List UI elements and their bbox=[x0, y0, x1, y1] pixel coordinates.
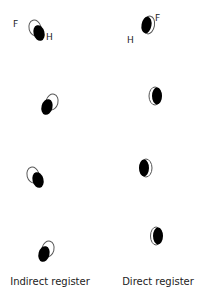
marker-f: F bbox=[155, 13, 160, 23]
marker-h: H bbox=[127, 35, 134, 45]
ellipse-pair bbox=[25, 166, 45, 189]
filled-ellipse bbox=[139, 160, 149, 177]
filled-ellipse bbox=[31, 171, 46, 189]
filled-ellipse bbox=[32, 24, 47, 42]
register-diagram: FH FH bbox=[0, 0, 207, 304]
filled-ellipse bbox=[153, 228, 163, 245]
ellipse-pair bbox=[37, 240, 56, 263]
ellipse-pair bbox=[139, 159, 152, 177]
marker-f: F bbox=[13, 19, 18, 29]
direct-register-column: FH bbox=[127, 13, 163, 245]
ellipse-pair bbox=[27, 19, 46, 42]
filled-ellipse bbox=[40, 98, 55, 116]
indirect-register-column: FH bbox=[13, 19, 60, 263]
filled-ellipse bbox=[152, 88, 162, 105]
filled-ellipse bbox=[140, 16, 153, 34]
indirect-register-label: Indirect register bbox=[10, 276, 90, 287]
ellipse-pair bbox=[40, 93, 60, 116]
ellipse-pair bbox=[149, 87, 162, 105]
ellipse-pair bbox=[151, 227, 164, 245]
marker-h: H bbox=[46, 32, 53, 42]
ellipse-pair bbox=[140, 15, 156, 35]
direct-register-label: Direct register bbox=[122, 276, 194, 287]
filled-ellipse bbox=[37, 245, 52, 263]
